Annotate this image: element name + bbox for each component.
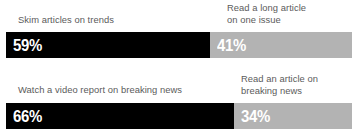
bar-value-primary: 59% bbox=[13, 37, 42, 54]
bar-segment-primary[interactable]: 59% bbox=[6, 32, 210, 58]
bar-segment-secondary[interactable]: 34% bbox=[234, 103, 352, 129]
bar-value-primary: 66% bbox=[13, 108, 42, 125]
category-label-secondary: Read a long article on one issue bbox=[227, 2, 306, 25]
bar-value-secondary: 34% bbox=[241, 108, 270, 125]
bar-track: 59% 41% bbox=[6, 32, 352, 58]
bar-segment-secondary[interactable]: 41% bbox=[210, 32, 352, 58]
category-label-primary: Skim articles on trends bbox=[18, 14, 114, 26]
bar-segment-primary[interactable]: 66% bbox=[6, 103, 234, 129]
category-label-secondary: Read an article on breaking news bbox=[241, 73, 318, 96]
bar-value-secondary: 41% bbox=[217, 37, 246, 54]
bar-track: 66% 34% bbox=[6, 103, 352, 129]
stacked-bar-chart: Skim articles on trends Read a long arti… bbox=[0, 0, 359, 138]
category-label-primary: Watch a video report on breaking news bbox=[18, 84, 182, 96]
